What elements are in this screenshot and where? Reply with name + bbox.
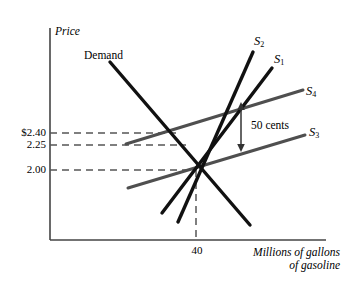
fifty-cents-arrow [237,102,245,152]
curve-label-s2-sub: 2 [260,40,264,49]
x-axis-title-line1: Millions of gallons [253,246,340,258]
demand-curve-label: Demand [84,50,123,62]
curve-label-s1: S1 [274,53,284,67]
curve-label-s2: S2 [254,35,264,49]
curve-label-s3: S3 [309,126,319,140]
curve-label-s4-sub: 4 [312,90,316,99]
curve-label-s3-sub: 3 [315,131,319,140]
chart-canvas [0,0,344,283]
y-tick-label-240: $2.40 [0,127,46,138]
supply-demand-figure: Price $2.40 2.25 2.00 40 Millions of gal… [0,0,344,283]
curve-label-s1-sub: 1 [280,58,284,67]
x-axis-title-line2: of gasoline [289,259,340,271]
fifty-cents-annotation: 50 cents [251,120,289,132]
y-tick-label-200: 2.00 [0,164,46,175]
y-tick-label-225: 2.25 [0,139,46,150]
x-tick-label-40: 40 [186,245,208,256]
y-axis-title: Price [55,26,80,38]
curve-label-s4: S4 [306,85,316,99]
x-axis-title: Millions of gallons of gasoline [222,246,340,272]
